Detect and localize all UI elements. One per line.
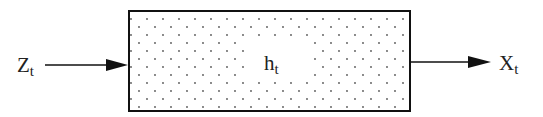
output-label: Xt: [499, 51, 519, 77]
output-arrowhead-icon: [468, 56, 491, 68]
state-label-background: [250, 38, 310, 78]
input-label: Zt: [17, 53, 35, 79]
input-arrowhead-icon: [106, 59, 128, 71]
diagram: Zt ht Xt: [0, 0, 543, 117]
